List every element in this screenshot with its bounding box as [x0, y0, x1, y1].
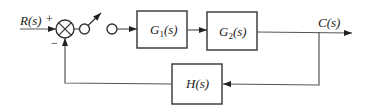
minus-sign: −: [51, 36, 58, 50]
switch-icon: [80, 13, 118, 34]
block-h: H(s): [172, 64, 222, 104]
output-arrow: [257, 32, 352, 33]
block-g2: G2(s): [207, 12, 257, 50]
block-g1: G1(s): [137, 11, 187, 48]
block-diagram: R(s) + − G1(s) G2(s) C(s) H(s): [0, 0, 371, 108]
summing-junction-icon: [56, 20, 74, 38]
output-label: C(s): [318, 15, 340, 30]
block-h-label: H(s): [185, 76, 209, 91]
plus-sign: +: [46, 12, 53, 26]
input-label: R(s): [19, 13, 42, 28]
block-g1-label: G1(s): [150, 22, 178, 39]
block-g2-label: G2(s): [219, 24, 247, 41]
